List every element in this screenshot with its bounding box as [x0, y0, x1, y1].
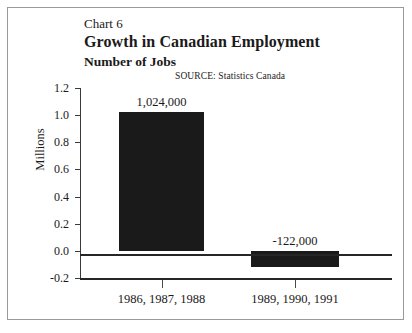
y-tick-label: 1.2 — [33, 82, 69, 94]
y-tick-mark — [75, 251, 81, 252]
x-tick-mark — [295, 280, 296, 288]
y-tick-mark — [75, 88, 81, 89]
y-tick-mark — [75, 197, 81, 198]
y-tick-mark — [75, 115, 81, 116]
y-tick-label: 0.2 — [33, 218, 69, 230]
y-tick-label: 0.4 — [33, 191, 69, 203]
y-tick-mark — [75, 169, 81, 170]
y-tick-label: 0.0 — [33, 245, 69, 257]
zero-baseline — [80, 254, 392, 256]
y-tick-mark — [75, 142, 81, 143]
plot-area: Millions 1.21.00.80.60.40.20.0-0.2 1,024… — [0, 0, 412, 333]
y-tick-mark — [75, 224, 81, 225]
axis-bottom-rule — [80, 278, 392, 280]
y-tick-label: 1.0 — [33, 109, 69, 121]
x-tick-label: 1989, 1990, 1991 — [205, 292, 385, 307]
y-tick-label: 0.6 — [33, 163, 69, 175]
x-tick-mark — [162, 280, 163, 288]
y-tick-label: 0.8 — [33, 136, 69, 148]
bar-value-label: 1,024,000 — [92, 95, 232, 110]
bar — [119, 112, 204, 251]
chart-page: Chart 6 Growth in Canadian Employment Nu… — [0, 0, 412, 333]
bar-value-label: -122,000 — [225, 234, 365, 249]
y-tick-label: -0.2 — [33, 272, 69, 284]
